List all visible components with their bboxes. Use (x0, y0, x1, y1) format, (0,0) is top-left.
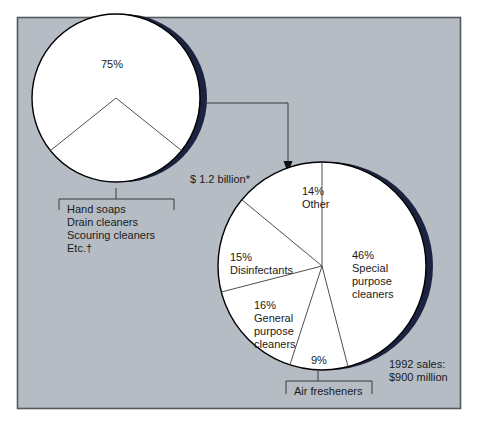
pie-2-label-disinfectants-name: Disinfectants (230, 264, 293, 277)
pie-2-label-special-name-2: purpose (352, 275, 392, 288)
pie-2-label-other-percent: 14% (302, 185, 324, 198)
pie-2-label-special-percent: 46% (352, 249, 374, 262)
pie-2-label-general-name-3: cleaners (254, 338, 296, 351)
pie-1-callout-line-2: Drain cleaners (67, 216, 138, 229)
pie-2-label-disinfectants-percent: 15% (230, 251, 252, 264)
sales-note-line-1: 1992 sales: (389, 358, 445, 371)
connector-value-label: $ 1.2 billion* (190, 173, 250, 186)
pie-2-label-general-name-2: purpose (254, 325, 294, 338)
pie-2-label-special-name-3: cleaners (352, 288, 394, 301)
pie-2-label-other-name: Other (302, 198, 330, 211)
sales-note-line-2: $900 million (389, 371, 448, 384)
figure-container: 75% Hand soaps Drain cleaners Scouring c… (0, 0, 477, 424)
air-freshener-box-label: Air fresheners (294, 385, 362, 398)
pie-2-label-general-name-1: General (254, 312, 293, 325)
pie-1-callout-line-3: Scouring cleaners (67, 229, 155, 242)
pie-1-callout-line-4: Etc.† (67, 242, 92, 255)
pie-1 (32, 14, 207, 182)
pie-2-label-general-percent: 16% (254, 299, 276, 312)
pie-1-percent-label: 75% (101, 58, 123, 71)
pie-1-callout-line-1: Hand soaps (67, 203, 126, 216)
pie-2-label-special-name-1: Special (352, 262, 388, 275)
pie-2-label-air-freshener-percent: 9% (311, 354, 327, 367)
